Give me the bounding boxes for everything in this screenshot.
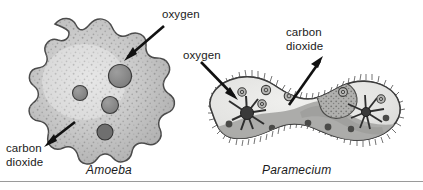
paramecium-oxygen-label: oxygen: [183, 49, 221, 63]
amoeba-carbon-dioxide-label-line1: carbon: [6, 142, 42, 156]
amoeba-cytoplasm-stipple: [20, 10, 185, 175]
amoeba-organelle: [73, 86, 88, 101]
amoeba-organelle: [109, 65, 132, 88]
amoeba-organelle: [97, 124, 113, 140]
amoeba-cell: [20, 10, 185, 175]
gas-exchange-diagram: oxygen carbon dioxide oxygen carbon diox…: [0, 0, 423, 190]
paramecium-carbon-dioxide-label-line2: dioxide: [286, 40, 323, 54]
amoeba-organelle: [102, 97, 119, 114]
amoeba-oxygen-label: oxygen: [162, 8, 200, 22]
paramecium-carbon-dioxide-label-line1: carbon: [286, 26, 322, 40]
diagram-artwork: [0, 0, 423, 190]
paramecium-caption: Paramecium: [262, 163, 331, 177]
amoeba-caption: Amoeba: [86, 163, 132, 177]
amoeba-carbon-dioxide-label-line2: dioxide: [6, 156, 43, 170]
bottom-divider: [0, 181, 423, 182]
